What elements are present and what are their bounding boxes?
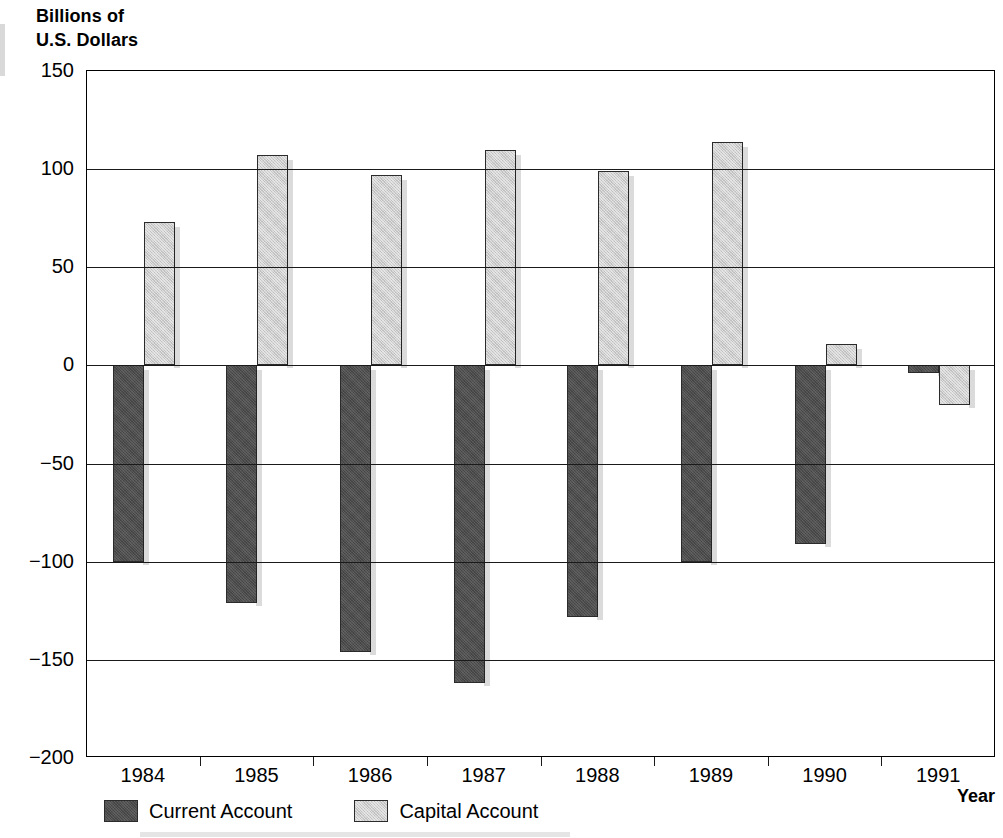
- bar-current-account-1986: [340, 365, 371, 652]
- y-tick-label: −100: [0, 551, 74, 571]
- gridline: [87, 660, 994, 661]
- gridline: [87, 365, 994, 366]
- y-tick-label: −200: [0, 747, 74, 767]
- bar-capital-account-1987: [485, 150, 516, 366]
- y-tick-label: −150: [0, 649, 74, 669]
- bar-capital-account-1989: [712, 142, 743, 366]
- x-tick-label-1991: 1991: [878, 764, 998, 786]
- y-tick-label: 150: [0, 60, 74, 80]
- y-tick-label: 100: [0, 158, 74, 178]
- bar-current-account-1990: [795, 365, 826, 544]
- x-axis-title: Year: [957, 786, 995, 807]
- bar-capital-account-1985: [257, 155, 288, 365]
- bar-current-account-1991: [908, 365, 939, 373]
- plot-area: [86, 70, 995, 757]
- bars-layer: [87, 71, 994, 756]
- bar-capital-account-1991: [939, 365, 970, 404]
- bar-capital-account-1986: [371, 175, 402, 365]
- x-tick-label-1984: 1984: [83, 764, 203, 786]
- bar-capital-account-1990: [826, 344, 857, 366]
- y-tick-label: 50: [0, 256, 74, 276]
- y-tick-label: 0: [0, 354, 74, 374]
- legend-swatch-capital-account: [354, 800, 388, 822]
- x-tick-label-1989: 1989: [651, 764, 771, 786]
- legend-item-capital-account: Capital Account: [354, 800, 538, 822]
- x-tick-label-1986: 1986: [310, 764, 430, 786]
- bar-current-account-1987: [454, 365, 485, 683]
- chart-figure: Billions of U.S. Dollars 150100500−50−10…: [0, 0, 1003, 838]
- x-tick-label-1988: 1988: [537, 764, 657, 786]
- x-tick-label-1985: 1985: [196, 764, 316, 786]
- x-tick-label-1990: 1990: [765, 764, 885, 786]
- bar-current-account-1985: [226, 365, 257, 603]
- legend-item-current-account: Current Account: [104, 800, 292, 822]
- bar-current-account-1988: [567, 365, 598, 616]
- gridline: [87, 169, 994, 170]
- bar-capital-account-1984: [144, 222, 175, 365]
- x-tick-label-1987: 1987: [424, 764, 544, 786]
- scan-smudge-artifact: [140, 832, 570, 837]
- y-axis-title: Billions of U.S. Dollars: [36, 4, 138, 52]
- legend-swatch-current-account: [104, 800, 138, 822]
- y-tick-label: −50: [0, 453, 74, 473]
- gridline: [87, 464, 994, 465]
- legend-label-capital-account: Capital Account: [399, 800, 538, 822]
- gridline: [87, 562, 994, 563]
- chart-legend: Current Account Capital Account: [104, 800, 538, 822]
- legend-label-current-account: Current Account: [149, 800, 292, 822]
- gridline: [87, 267, 994, 268]
